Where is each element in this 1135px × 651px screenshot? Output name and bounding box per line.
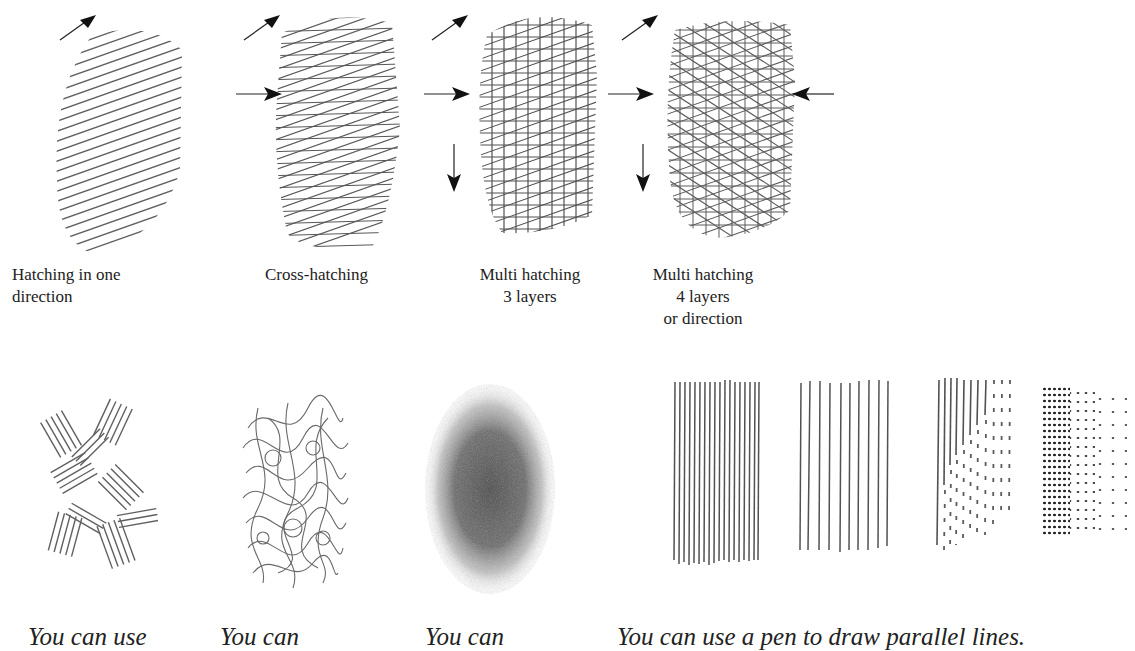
arrow-down-icon — [635, 144, 651, 192]
caption-pen-parallel-lines: You can use a pen to draw parallel lines… — [617, 622, 1025, 651]
caption-you-can-use: You can use — [28, 622, 147, 651]
hatching-one-direction-swatch — [52, 20, 187, 255]
arrow-diagonal-icon — [430, 14, 470, 42]
caption-you-can-2: You can — [425, 622, 504, 651]
label-line: direction — [12, 286, 121, 308]
label-line: or direction — [633, 308, 773, 330]
stipple-blend-swatch — [420, 384, 555, 599]
arrow-diagonal-icon — [242, 14, 282, 42]
label-cross-hatching: Cross-hatching — [265, 264, 368, 286]
scribble-loops-swatch — [238, 388, 353, 593]
caption-you-can-1: You can — [220, 622, 299, 651]
multi-hatching-4-layers-swatch — [655, 10, 800, 240]
pen-lines-dashes-swatch — [935, 375, 1015, 555]
label-hatching-one-direction: Hatching in one direction — [12, 264, 121, 308]
scribble-blocks-swatch — [38, 390, 158, 585]
cross-hatching-swatch — [262, 8, 402, 253]
label-multi-hatching-4: Multi hatching 4 layers or direction — [633, 264, 773, 330]
label-multi-hatching-3: Multi hatching 3 layers — [460, 264, 600, 308]
label-line: Multi hatching — [460, 264, 600, 286]
label-line: Cross-hatching — [265, 264, 368, 286]
arrow-right-icon — [424, 86, 470, 102]
arrow-down-icon — [446, 144, 462, 192]
arrow-diagonal-icon — [620, 14, 660, 42]
arrow-right-icon — [608, 86, 654, 102]
pen-dots-swatch — [1042, 380, 1127, 540]
label-line: Hatching in one — [12, 264, 121, 286]
multi-hatching-3-layers-swatch — [462, 5, 602, 235]
label-line: Multi hatching — [633, 264, 773, 286]
pen-lines-spaced-swatch — [796, 378, 891, 558]
arrow-diagonal-icon — [58, 14, 98, 42]
pen-lines-dense-swatch — [672, 380, 762, 568]
label-line: 4 layers — [633, 286, 773, 308]
arrow-right-icon — [236, 86, 282, 102]
arrow-left-icon — [792, 86, 834, 102]
label-line: 3 layers — [460, 286, 600, 308]
